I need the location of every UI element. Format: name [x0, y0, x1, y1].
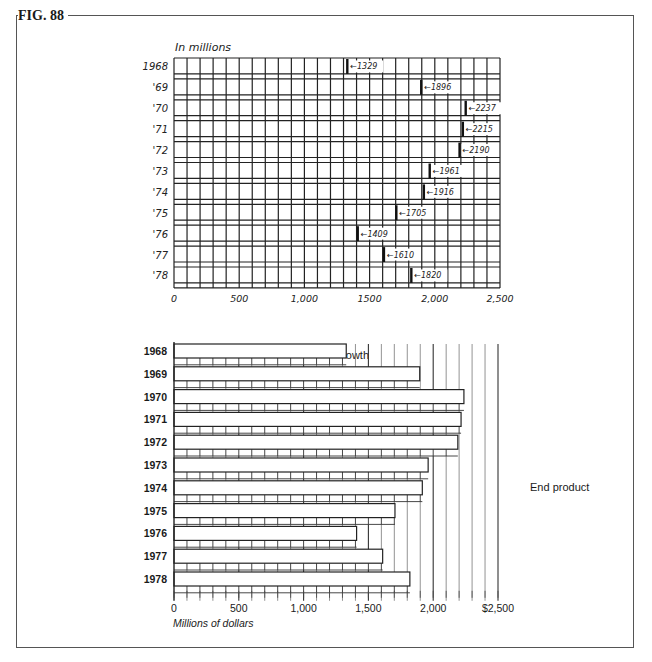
year-label: 1975 — [144, 505, 168, 517]
year-label: 1976 — [144, 527, 168, 539]
bar-1975 — [174, 504, 395, 518]
bar-tick-strip — [174, 472, 428, 479]
bar-1973 — [174, 458, 428, 472]
bar-1977 — [174, 549, 383, 563]
x-tick-label: $2,500 — [482, 602, 514, 614]
bar-tick-strip — [174, 358, 346, 365]
bar-tick-strip — [174, 404, 464, 411]
year-label: 1969 — [144, 368, 168, 380]
x-axis-label: Millions of dollars — [173, 617, 254, 629]
bar-tick-strip — [174, 426, 461, 433]
x-tick-label: 2,000 — [420, 602, 446, 614]
year-label: 1974 — [144, 482, 168, 494]
bar-1968 — [174, 344, 346, 358]
bar-1969 — [174, 367, 420, 381]
bar-1971 — [174, 412, 461, 426]
x-tick-label: 500 — [230, 602, 248, 614]
bar-tick-strip — [174, 586, 410, 593]
year-label: 1968 — [144, 345, 168, 357]
bar-tick-strip — [174, 518, 395, 525]
bar-tick-strip — [174, 449, 458, 456]
bar-tick-strip — [174, 495, 422, 502]
figure-label: FIG. 88 — [18, 8, 68, 24]
year-label: 1972 — [144, 436, 168, 448]
bar-1974 — [174, 481, 422, 495]
bar-1976 — [174, 526, 357, 540]
bar-tick-strip — [174, 540, 357, 547]
year-label: 1970 — [144, 391, 168, 403]
bar-tick-strip — [174, 563, 383, 570]
x-tick-label: 1,500 — [355, 602, 381, 614]
x-tick-label: 1,000 — [290, 602, 316, 614]
bar-1972 — [174, 435, 458, 449]
bar-tick-strip — [174, 381, 420, 388]
year-label: 1973 — [144, 459, 168, 471]
sales-growth-chart: Sales Growth1968196919701971197219731974… — [0, 0, 652, 662]
bar-1978 — [174, 572, 410, 586]
bar-1970 — [174, 390, 464, 404]
year-label: 1977 — [144, 550, 168, 562]
x-tick-label: 0 — [171, 602, 177, 614]
year-label: 1978 — [144, 573, 168, 585]
end-product-label: End product — [530, 481, 589, 493]
year-label: 1971 — [144, 413, 168, 425]
